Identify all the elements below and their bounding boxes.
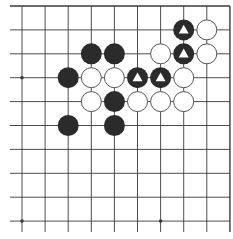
white-stone[interactable] xyxy=(197,20,217,40)
star-point xyxy=(20,219,24,223)
white-stone[interactable] xyxy=(81,92,101,112)
white-stone[interactable] xyxy=(197,44,217,64)
black-stone-body xyxy=(104,43,125,64)
white-stone[interactable] xyxy=(174,92,194,112)
white-stone[interactable] xyxy=(174,68,194,88)
white-stone-body xyxy=(128,92,148,112)
go-board[interactable] xyxy=(0,0,233,239)
black-stone-body xyxy=(58,67,79,88)
star-point xyxy=(159,219,163,223)
white-stone[interactable] xyxy=(151,44,171,64)
black-stone-body xyxy=(104,115,125,136)
white-stone-body xyxy=(151,44,171,64)
black-stone[interactable] xyxy=(104,43,125,64)
white-stone[interactable] xyxy=(81,68,101,88)
white-stone-body xyxy=(81,92,101,112)
black-stone[interactable] xyxy=(173,43,194,64)
star-point xyxy=(20,76,24,80)
white-stone-body xyxy=(104,68,124,88)
black-stone[interactable] xyxy=(58,115,79,136)
black-stone[interactable] xyxy=(150,67,171,88)
white-stone-body xyxy=(174,92,194,112)
black-stone-body xyxy=(81,43,102,64)
black-stone-body xyxy=(104,91,125,112)
white-stone-body xyxy=(81,68,101,88)
white-stone-body xyxy=(197,44,217,64)
black-stone[interactable] xyxy=(173,19,194,40)
black-stone[interactable] xyxy=(58,67,79,88)
black-stone[interactable] xyxy=(104,91,125,112)
white-stone-body xyxy=(174,68,194,88)
black-stone[interactable] xyxy=(104,115,125,136)
white-stone-body xyxy=(197,20,217,40)
black-stone[interactable] xyxy=(127,67,148,88)
white-stone-body xyxy=(151,92,171,112)
white-stone[interactable] xyxy=(151,92,171,112)
white-stone[interactable] xyxy=(104,68,124,88)
white-stone[interactable] xyxy=(128,92,148,112)
black-stone[interactable] xyxy=(81,43,102,64)
black-stone-body xyxy=(58,115,79,136)
